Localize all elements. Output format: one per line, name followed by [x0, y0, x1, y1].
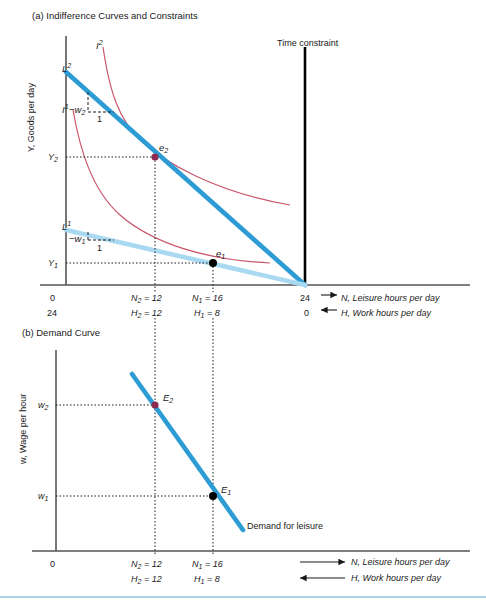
panel-b-xtick-h1: H1 = 8 — [194, 574, 220, 584]
budget-line-l2-label: L2 — [62, 63, 71, 74]
panel-a-xtick-h1: H1 = 8 — [194, 308, 220, 318]
slope-run-label-w2: 1 — [97, 114, 102, 124]
panel-b-xtick-n2: N2 = 12 — [131, 559, 162, 569]
panel-a-xtick-h2: H2 = 12 — [131, 308, 162, 318]
panel-a-title: (a) Indifference Curves and Constraints — [32, 10, 198, 21]
budget-line-l1 — [66, 230, 305, 285]
panel-b-ytick-w2: w2 — [38, 400, 48, 410]
panel-a-work-axis-name: H, Work hours per day — [341, 308, 431, 318]
panel-a-ytick-y1: Y1 — [48, 258, 58, 268]
equilibrium-point-e2 — [151, 153, 158, 160]
panel-b-leisure-axis-name: N, Leisure hours per day — [351, 557, 450, 567]
panel-b-y-axis-label: w, Wage per hour — [18, 394, 28, 464]
panel-a-leisure-axis-name: N, Leisure hours per day — [341, 293, 440, 303]
equilibrium-label-E2: E2 — [163, 392, 173, 403]
budget-line-l2 — [66, 72, 305, 285]
panel-a-right-value-top: 24 — [300, 293, 310, 303]
panel-a-origin-top: 0 — [50, 293, 55, 303]
footer-divider — [0, 596, 486, 598]
panel-a-xtick-n1: N1 = 16 — [192, 293, 223, 303]
panel-b-xtick-n1: N1 = 16 — [192, 559, 223, 569]
panel-b-xtick-h2: H2 = 12 — [131, 574, 162, 584]
panel-a-right-value-bottom: 0 — [304, 308, 309, 318]
budget-line-l1-label: L1 — [62, 221, 71, 232]
panel-a-y-axis-label: Y, Goods per day — [26, 83, 36, 152]
panel-a-plot — [40, 36, 470, 292]
slope-run-label-w1: 1 — [97, 243, 102, 253]
demand-for-leisure-label: Demand for leisure — [247, 521, 323, 531]
equilibrium-point-E2 — [151, 401, 158, 408]
panel-a-xtick-n2: N2 = 12 — [131, 293, 162, 303]
demand-for-leisure-curve — [132, 374, 243, 530]
panel-b-work-axis-name: H, Work hours per day — [351, 573, 441, 583]
slope-label-w1: −w1 — [69, 233, 85, 244]
equilibrium-label-e2: e2 — [159, 142, 168, 153]
equilibrium-label-E1: E1 — [221, 484, 231, 495]
indifference-curve-i2-label: I2 — [96, 40, 103, 51]
slope-label-w2: −w2 — [69, 104, 85, 115]
equilibrium-point-e1 — [209, 259, 217, 267]
indifference-curve-i2 — [103, 47, 290, 205]
time-constraint-label: Time constraint — [277, 38, 338, 48]
equilibrium-label-e1: e1 — [216, 248, 225, 259]
panel-b-origin: 0 — [50, 559, 55, 569]
indifference-curve-i1-label: I1 — [62, 104, 69, 115]
panel-a-ytick-y2: Y2 — [48, 152, 58, 162]
equilibrium-point-E1 — [209, 492, 217, 500]
figure-canvas — [0, 0, 486, 613]
panel-b-ytick-w1: w1 — [38, 491, 48, 501]
panel-a-origin-bottom: 24 — [47, 308, 57, 318]
panel-b-title: (b) Demand Curve — [22, 327, 100, 338]
figure-container: (a) Indifference Curves and Constraints … — [0, 0, 486, 613]
